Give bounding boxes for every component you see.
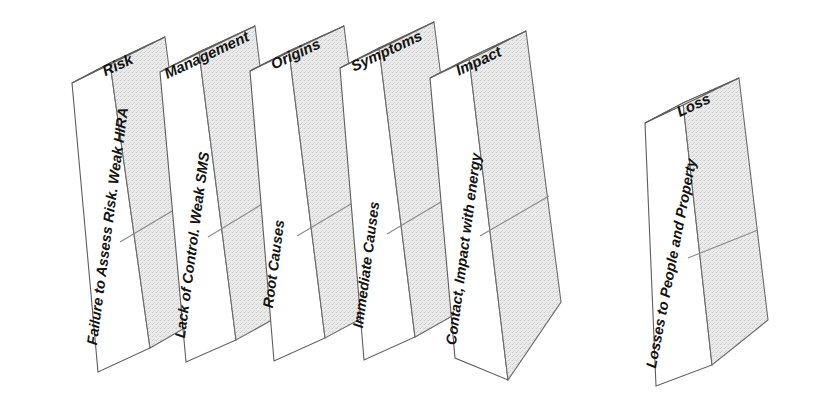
domino-diagram: Risk Failure to Assess Risk. Weak HIRA M… (0, 0, 822, 409)
diagram-canvas: Risk Failure to Assess Risk. Weak HIRA M… (0, 0, 822, 409)
